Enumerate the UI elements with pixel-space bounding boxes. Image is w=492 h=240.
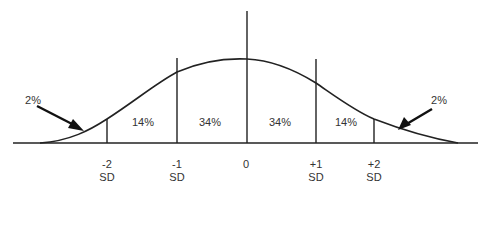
arrow-right-icon xyxy=(398,109,432,130)
label-p1-p2: 14% xyxy=(330,116,362,129)
tick-value: -2 xyxy=(90,158,124,171)
tick-unit: SD xyxy=(90,171,124,184)
tick-unit: SD xyxy=(357,171,391,184)
tick-minus-1: -1 SD xyxy=(160,158,194,184)
tick-plus-2: +2 SD xyxy=(357,158,391,184)
tick-unit: SD xyxy=(160,171,194,184)
label-right-tail: 2% xyxy=(426,94,452,107)
label-left-tail: 2% xyxy=(20,94,46,107)
tick-value: +1 xyxy=(299,158,333,171)
arrow-left-icon xyxy=(37,106,84,131)
tick-value: 0 xyxy=(229,158,263,171)
tick-value: -1 xyxy=(160,158,194,171)
label-m2-m1: 14% xyxy=(127,116,159,129)
tick-zero: 0 xyxy=(229,158,263,171)
tick-value: +2 xyxy=(357,158,391,171)
bell-curve xyxy=(40,59,458,143)
label-0-p1: 34% xyxy=(264,116,296,129)
tick-minus-2: -2 SD xyxy=(90,158,124,184)
tick-plus-1: +1 SD xyxy=(299,158,333,184)
label-m1-0: 34% xyxy=(194,116,226,129)
tick-unit: SD xyxy=(299,171,333,184)
